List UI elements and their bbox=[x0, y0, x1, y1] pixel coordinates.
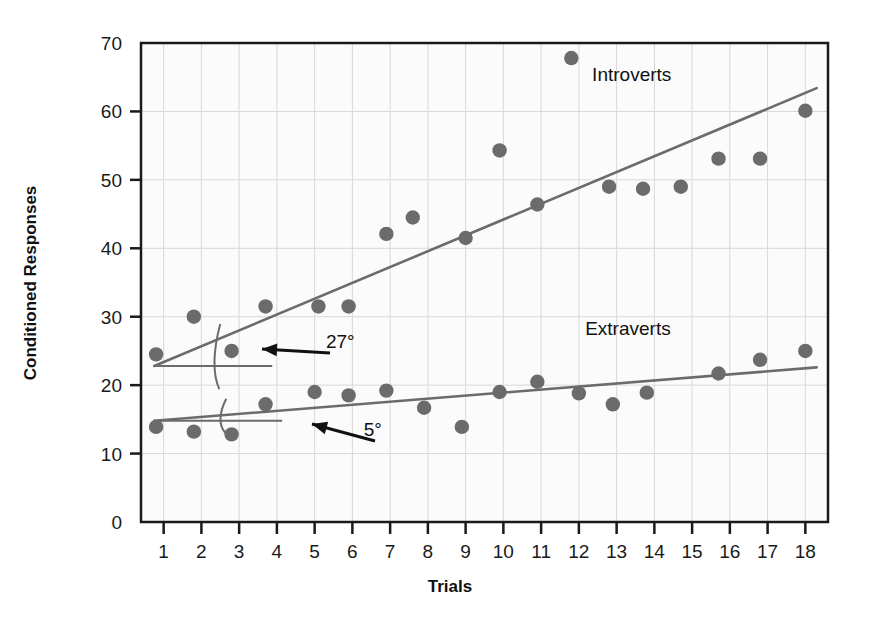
data-point bbox=[258, 397, 272, 411]
x-axis-tick-label: 12 bbox=[568, 541, 589, 562]
introverts-angle-label: 27° bbox=[326, 331, 355, 352]
x-axis-tick-label: 9 bbox=[460, 541, 471, 562]
x-axis-tick-label: 7 bbox=[385, 541, 396, 562]
data-point bbox=[711, 366, 725, 380]
data-point bbox=[379, 227, 393, 241]
x-axis-tick-label: 10 bbox=[493, 541, 514, 562]
y-axis-tick-label: 20 bbox=[101, 375, 122, 396]
data-point bbox=[455, 420, 469, 434]
series-label-extraverts: Extraverts bbox=[585, 318, 671, 339]
data-point bbox=[187, 424, 201, 438]
x-axis-tick-label: 6 bbox=[347, 541, 358, 562]
data-point bbox=[572, 386, 586, 400]
data-point bbox=[341, 388, 355, 402]
y-axis-tick-label: 40 bbox=[101, 238, 122, 259]
y-axis-tick-label: 60 bbox=[101, 101, 122, 122]
data-point bbox=[311, 299, 325, 313]
data-point bbox=[753, 151, 767, 165]
x-axis-tick-label: 18 bbox=[795, 541, 816, 562]
y-axis-tick-label: 70 bbox=[101, 33, 122, 54]
plot-area-background bbox=[141, 43, 828, 522]
y-axis-tick-label: 0 bbox=[111, 512, 122, 533]
x-axis-tick-label: 16 bbox=[719, 541, 740, 562]
data-point bbox=[674, 180, 688, 194]
data-point bbox=[341, 299, 355, 313]
data-point bbox=[606, 397, 620, 411]
data-point bbox=[492, 385, 506, 399]
y-axis-tick-label: 30 bbox=[101, 307, 122, 328]
data-point bbox=[379, 383, 393, 397]
x-axis-tick-label: 11 bbox=[531, 541, 551, 562]
data-point bbox=[258, 299, 272, 313]
x-axis-tick-label: 14 bbox=[644, 541, 666, 562]
data-point bbox=[602, 180, 616, 194]
data-point bbox=[564, 51, 578, 65]
y-axis: 010203040506070 bbox=[101, 33, 141, 533]
y-axis-title: Conditioned Responses bbox=[21, 186, 40, 381]
data-point bbox=[458, 231, 472, 245]
x-axis-tick-label: 17 bbox=[757, 541, 778, 562]
data-point bbox=[492, 143, 506, 157]
data-point bbox=[753, 353, 767, 367]
data-point bbox=[417, 401, 431, 415]
series-label-introverts: Introverts bbox=[592, 64, 671, 85]
data-point bbox=[307, 385, 321, 399]
x-axis-tick-label: 5 bbox=[309, 541, 320, 562]
y-axis-tick-label: 10 bbox=[101, 444, 122, 465]
x-axis-tick-label: 1 bbox=[158, 541, 169, 562]
x-axis-tick-label: 4 bbox=[272, 541, 283, 562]
figure-container: 010203040506070 123456789101112131415161… bbox=[0, 0, 872, 625]
data-point bbox=[640, 385, 654, 399]
x-axis-tick-label: 8 bbox=[423, 541, 434, 562]
x-axis-tick-label: 2 bbox=[196, 541, 207, 562]
x-axis-tick-label: 15 bbox=[682, 541, 703, 562]
x-axis-tick-label: 13 bbox=[606, 541, 627, 562]
x-axis-title: Trials bbox=[428, 577, 472, 596]
data-point bbox=[224, 427, 238, 441]
x-axis-tick-label: 3 bbox=[234, 541, 245, 562]
x-axis: 123456789101112131415161718 bbox=[158, 522, 816, 562]
data-point bbox=[406, 210, 420, 224]
extraverts-angle-label: 5° bbox=[364, 419, 382, 440]
data-point bbox=[224, 344, 238, 358]
data-point bbox=[636, 182, 650, 196]
data-point bbox=[149, 420, 163, 434]
data-point bbox=[530, 197, 544, 211]
y-axis-tick-label: 50 bbox=[101, 170, 122, 191]
scatter-chart: 010203040506070 123456789101112131415161… bbox=[0, 0, 872, 625]
data-point bbox=[798, 344, 812, 358]
data-point bbox=[798, 104, 812, 118]
data-point bbox=[187, 310, 201, 324]
data-point bbox=[149, 347, 163, 361]
data-point bbox=[530, 375, 544, 389]
data-point bbox=[711, 151, 725, 165]
